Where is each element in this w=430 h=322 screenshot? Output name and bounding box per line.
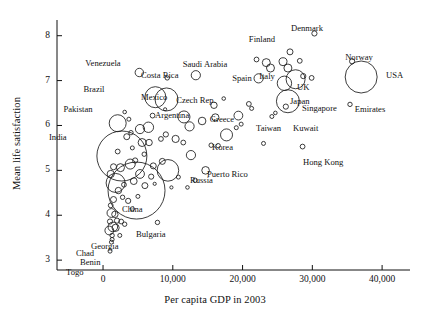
y-axis-title: Mean life satisfaction xyxy=(11,64,22,224)
point-label: Czech Rep. xyxy=(176,96,216,105)
data-point xyxy=(309,76,314,81)
data-point xyxy=(115,149,120,154)
data-point xyxy=(142,152,146,156)
point-label: Russia xyxy=(190,176,213,185)
data-point xyxy=(274,111,278,115)
data-point-labeled xyxy=(270,115,274,119)
point-label: Bulgaria xyxy=(136,230,166,239)
data-point xyxy=(142,183,148,189)
scatter-chart: Per capita GDP in 2003 Mean life satisfa… xyxy=(0,0,430,322)
data-point xyxy=(198,117,206,125)
data-point-labeled xyxy=(122,222,126,226)
point-label: Georgia xyxy=(91,242,119,251)
point-label: Italy xyxy=(259,72,275,81)
data-point-labeled xyxy=(277,76,291,90)
point-label: India xyxy=(49,133,67,142)
data-point xyxy=(111,164,117,170)
point-label: Korea xyxy=(212,143,233,152)
data-point xyxy=(186,151,195,160)
data-point xyxy=(111,197,117,203)
y-tick-label: 6 xyxy=(36,119,50,129)
data-point xyxy=(107,209,116,218)
data-point xyxy=(222,97,226,101)
data-point xyxy=(186,186,190,190)
data-point-labeled xyxy=(283,104,288,109)
point-label: Brazil xyxy=(84,85,105,94)
y-tick-label: 3 xyxy=(36,254,50,264)
data-point xyxy=(172,135,179,142)
point-label: Benin xyxy=(80,258,101,267)
point-label: USA xyxy=(386,71,403,80)
y-tick-label: 4 xyxy=(36,209,50,219)
x-tick-label: 40,000 xyxy=(369,274,395,284)
point-label: Norway xyxy=(345,53,373,62)
y-tick-label: 7 xyxy=(36,75,50,85)
data-point xyxy=(130,146,134,150)
point-label: UK xyxy=(297,83,309,92)
point-label: Finland xyxy=(249,35,275,44)
point-label: Singapore xyxy=(302,104,337,113)
data-point xyxy=(123,110,127,114)
point-label: Mexico xyxy=(141,93,167,102)
data-point-labeled xyxy=(348,102,352,106)
point-label: Pakistan xyxy=(63,105,92,114)
data-point xyxy=(254,57,259,62)
data-point xyxy=(262,141,266,145)
point-label: Saudi Arabia xyxy=(183,60,228,69)
data-point xyxy=(112,211,118,217)
point-label: Hong Kong xyxy=(303,158,343,167)
x-tick-label: 10,000 xyxy=(160,274,186,284)
data-point xyxy=(262,59,270,67)
x-tick-label: 30,000 xyxy=(299,274,325,284)
data-point xyxy=(120,195,124,199)
data-point-labeled xyxy=(109,115,126,132)
point-label: Puerto Rico xyxy=(207,170,248,179)
data-point-labeled xyxy=(287,49,293,55)
point-label: Argentina xyxy=(155,111,189,120)
point-label: Greece xyxy=(210,115,234,124)
x-tick-label: 0 xyxy=(101,274,106,284)
data-point-labeled xyxy=(191,71,200,80)
point-label: Costa Rica xyxy=(141,71,178,80)
data-point xyxy=(234,126,238,130)
x-axis-title: Per capita GDP in 2003 xyxy=(0,294,430,305)
point-label: Denmark xyxy=(291,24,323,33)
data-point xyxy=(163,132,168,137)
data-point-labeled xyxy=(97,131,147,181)
data-point-labeled xyxy=(221,129,233,141)
data-point-labeled xyxy=(157,160,179,182)
data-point xyxy=(126,198,131,203)
point-label: Kuwait xyxy=(293,124,318,133)
data-points xyxy=(97,31,377,253)
point-label: Taiwan xyxy=(256,124,281,133)
data-point xyxy=(127,117,131,121)
point-label: Emirates xyxy=(355,105,386,114)
data-point-labeled xyxy=(239,122,243,126)
data-point xyxy=(153,182,156,185)
point-label: Spain xyxy=(232,74,252,83)
data-point xyxy=(143,122,153,132)
data-point-labeled xyxy=(345,61,377,93)
data-point xyxy=(297,58,302,63)
data-point xyxy=(146,139,152,145)
y-tick-label: 8 xyxy=(36,30,50,40)
data-point xyxy=(124,134,130,140)
x-tick-label: 20,000 xyxy=(230,274,256,284)
data-point-labeled xyxy=(234,111,243,120)
y-axis-ticks xyxy=(57,36,62,260)
data-point xyxy=(122,182,127,187)
data-point xyxy=(159,137,164,142)
data-point xyxy=(118,233,122,237)
data-point xyxy=(181,140,186,145)
point-label: Togo xyxy=(66,268,84,277)
data-point-labeled xyxy=(300,144,305,149)
plot-area xyxy=(0,0,430,322)
data-point xyxy=(170,186,173,189)
data-point xyxy=(149,174,154,179)
data-point xyxy=(246,102,251,107)
x-axis-ticks xyxy=(103,265,382,270)
point-label: Venezuela xyxy=(85,59,120,68)
point-label: China xyxy=(122,205,143,214)
data-point-labeled xyxy=(155,220,159,224)
data-point xyxy=(136,170,145,179)
